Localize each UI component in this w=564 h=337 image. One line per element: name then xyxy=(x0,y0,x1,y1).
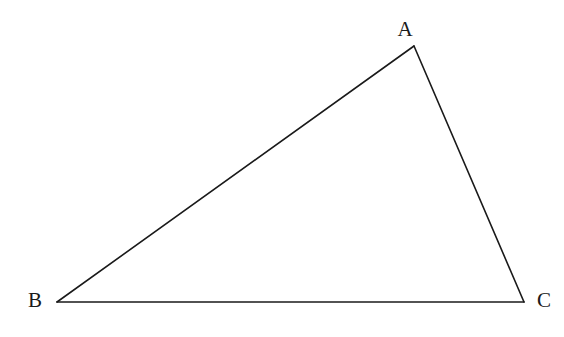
vertex-label-a: A xyxy=(397,17,413,41)
vertex-label-b: B xyxy=(28,288,42,312)
edge-ab xyxy=(57,46,414,302)
vertex-label-c: C xyxy=(537,288,551,312)
edge-ca xyxy=(414,46,524,302)
triangle-diagram: A B C xyxy=(0,0,564,337)
triangle-edges xyxy=(57,46,524,302)
vertex-labels: A B C xyxy=(28,17,551,312)
